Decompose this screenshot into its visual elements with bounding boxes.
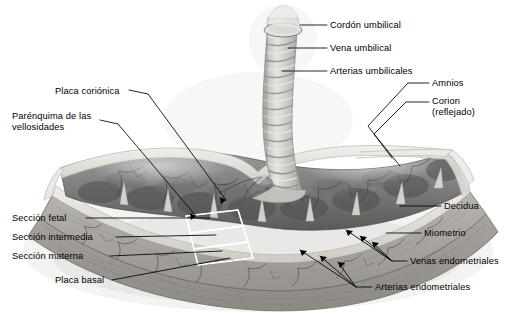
label-miometrio: Miometrio <box>424 228 466 239</box>
label-seccion-intermedia: Sección intermedia <box>12 232 93 243</box>
placenta-illustration <box>0 0 517 321</box>
label-vena-umbilical: Vena umbilical <box>330 43 391 54</box>
label-corion-reflejado: Corion (reflejado) <box>432 96 475 118</box>
label-cordon-umbilical: Cordón umbilical <box>330 20 401 31</box>
label-parenquima-vellosidades: Parénquima de las vellosidades <box>12 111 91 133</box>
label-venas-endometriales: Venas endometriales <box>410 256 499 267</box>
label-seccion-materna: Sección materna <box>12 251 83 262</box>
label-seccion-fetal: Sección fetal <box>12 213 67 224</box>
label-arterias-umbilicales: Arterias umbilicales <box>330 66 413 77</box>
label-decidua: Decidua <box>444 201 479 212</box>
label-amnios: Amnios <box>432 78 464 89</box>
label-arterias-endometriales: Arterias endometriales <box>375 282 470 293</box>
label-placa-corionica: Placa coriónica <box>55 86 120 97</box>
label-placa-basal: Placa basal <box>55 275 104 286</box>
placenta-anatomy-figure: Cordón umbilical Vena umbilical Arterias… <box>0 0 517 321</box>
